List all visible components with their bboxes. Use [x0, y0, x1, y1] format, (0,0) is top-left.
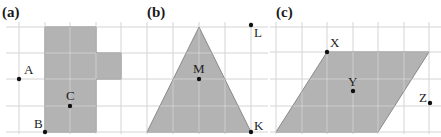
shaded-shape: [45, 27, 121, 132]
point-label-x: X: [330, 35, 340, 50]
point-label-m: M: [193, 61, 205, 76]
point-label-y: Y: [348, 74, 358, 89]
point-c: [68, 104, 72, 108]
point-z: [428, 101, 432, 105]
point-label-k: K: [254, 118, 264, 133]
point-x: [325, 50, 329, 54]
point-label-c: C: [66, 88, 75, 103]
point-b: [43, 130, 47, 134]
point-l: [249, 23, 253, 27]
point-label-z: Z: [419, 90, 427, 105]
point-y: [351, 89, 355, 93]
point-k: [249, 130, 253, 134]
point-label-a: A: [24, 62, 34, 77]
panel-label: (b): [147, 4, 165, 21]
panel-label: (a): [2, 4, 20, 21]
point-label-l: L: [254, 25, 262, 40]
point-m: [197, 77, 201, 81]
geometry-figure: (a)ACB(b)MLK(c)XYZ: [0, 0, 441, 137]
point-a: [17, 77, 21, 81]
point-label-b: B: [34, 116, 43, 131]
panel-label: (c): [276, 4, 293, 21]
